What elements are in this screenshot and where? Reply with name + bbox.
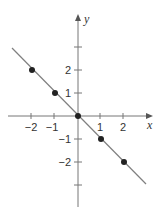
x-tick-label: −1	[46, 121, 59, 133]
coordinate-plane: −2 −1 1 2 2 1 −1 −2 x y	[0, 0, 165, 218]
y-axis-label: y	[83, 12, 90, 26]
x-tick-label: 2	[120, 121, 126, 133]
point-origin	[75, 113, 81, 119]
y-tick-label: 1	[65, 87, 71, 99]
y-tick-label: −1	[58, 133, 71, 145]
y-tick-label: −2	[58, 156, 71, 168]
point-2-neg2	[121, 159, 127, 165]
point-1-neg1	[98, 136, 104, 142]
point-neg1-1	[52, 90, 58, 96]
x-axis-label: x	[146, 118, 153, 132]
y-tick-label: 2	[65, 64, 71, 76]
y-axis-arrow-icon	[75, 14, 81, 21]
point-neg2-2	[29, 67, 35, 73]
x-tick-label: −2	[25, 121, 38, 133]
x-tick-label: 1	[97, 121, 103, 133]
